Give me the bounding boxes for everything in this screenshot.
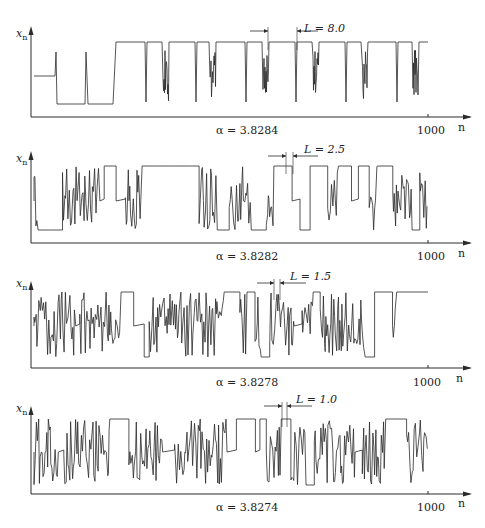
panel-alpha-3-8278: xn L = 1.5 α = 3.8278 1000 n xyxy=(0,265,485,395)
x-tick-1000: 1000 xyxy=(417,250,445,263)
alpha-label: α = 3.8274 xyxy=(216,501,278,514)
xn-trace xyxy=(34,292,428,357)
interval-annotation: L = 2.5 xyxy=(304,143,345,156)
y-axis-label: xn xyxy=(16,277,27,292)
interval-annotation: L = 1.0 xyxy=(296,393,337,406)
x-axis-label: n xyxy=(458,497,465,510)
y-axis-label: xn xyxy=(16,152,27,167)
x-axis-label: n xyxy=(458,247,465,260)
y-axis-label: xn xyxy=(16,27,27,42)
alpha-label: α = 3.8282 xyxy=(216,250,278,263)
panel-alpha-3-8282: xn L = 2.5 α = 3.8282 1000 n xyxy=(0,130,485,270)
xn-trace xyxy=(34,42,428,104)
interval-annotation: L = 1.5 xyxy=(290,270,331,283)
panel-alpha-3-8284: xn L = 8.0 α = 3.8284 1000 n xyxy=(0,0,485,140)
panel-alpha-3-8274: xn L = 1.0 α = 3.8274 1000 n xyxy=(0,390,485,528)
xn-trace xyxy=(34,166,427,230)
trace-plot xyxy=(0,130,485,270)
x-tick-1000: 1000 xyxy=(413,376,441,389)
alpha-label: α = 3.8278 xyxy=(216,376,278,389)
trace-plot xyxy=(0,0,485,140)
interval-annotation: L = 8.0 xyxy=(304,22,345,35)
x-tick-1000: 1000 xyxy=(417,501,445,514)
xn-trace xyxy=(34,419,427,485)
x-axis-label: n xyxy=(456,372,463,385)
y-axis-label: xn xyxy=(16,402,27,417)
